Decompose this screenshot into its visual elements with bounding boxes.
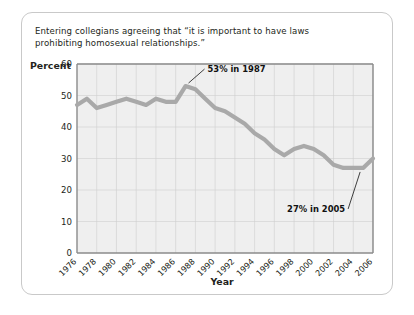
x-tick-label: 1996 — [254, 256, 276, 278]
x-tick-label: 1982 — [116, 256, 138, 278]
y-tick-label: 10 — [61, 217, 72, 227]
line-chart: 6050403020100 19761978198019821984198619… — [22, 13, 394, 296]
y-tick-label: 50 — [61, 91, 72, 101]
y-tick-label: 30 — [61, 154, 72, 164]
x-tick-label: 1980 — [96, 256, 118, 278]
x-tick-label: 1984 — [136, 256, 158, 278]
x-tick-label: 2006 — [353, 256, 375, 278]
x-tick-label: 2002 — [313, 256, 335, 278]
x-tick-label: 1990 — [195, 256, 217, 278]
y-axis-title: Percent — [30, 60, 71, 71]
x-tick-label: 1976 — [57, 256, 79, 278]
x-tick-label: 1994 — [234, 256, 256, 278]
x-tick-label: 1986 — [155, 256, 177, 278]
x-axis-title: Year — [209, 276, 234, 287]
chart-card: Entering collegians agreeing that “it is… — [21, 12, 393, 295]
y-tick-label: 20 — [61, 185, 72, 195]
x-tick-label: 1988 — [175, 256, 197, 278]
annotation-label: 27% in 2005 — [287, 204, 345, 214]
y-axis-ticks: 6050403020100 — [61, 59, 72, 258]
chart-svg: 6050403020100 19761978198019821984198619… — [22, 13, 394, 296]
x-tick-label: 1978 — [76, 256, 98, 278]
x-axis-ticks: 1976197819801982198419861988199019921994… — [57, 256, 375, 278]
y-tick-label: 40 — [61, 122, 72, 132]
annotation-label: 53% in 1987 — [208, 64, 266, 74]
x-tick-label: 2004 — [333, 256, 355, 278]
x-tick-label: 2000 — [293, 256, 315, 278]
x-tick-label: 1998 — [274, 256, 296, 278]
x-tick-label: 1992 — [214, 256, 236, 278]
